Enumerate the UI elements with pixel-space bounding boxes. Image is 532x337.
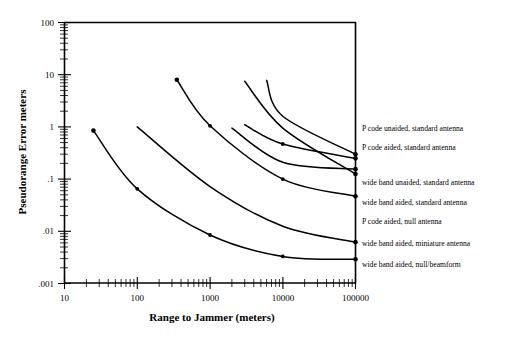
x-tick-label-100000: 100000: [342, 293, 370, 303]
chart-figure: 100 10 1 .1 .01 .001 10 100 1000 10000 1…: [0, 0, 532, 337]
y-axis-title: Pseudorange Error meters: [16, 89, 28, 215]
data-point-marker: [135, 187, 139, 191]
y-tick-label-0.01: .01: [43, 226, 54, 236]
legend-label-5: wide band aided, miniature antenna: [362, 239, 471, 248]
y-tick-label-100: 100: [41, 18, 55, 28]
x-tick-label-10000: 10000: [272, 293, 295, 303]
data-point-marker: [353, 172, 358, 177]
x-tick-label-10: 10: [60, 293, 70, 303]
plot-background: [0, 0, 532, 337]
legend-label-1: P code aided, standard antenna: [362, 143, 456, 152]
legend-label-2: wide band unaided, standard antenna: [362, 178, 475, 187]
y-tick-label-0.1: .1: [47, 174, 54, 184]
y-tick-label-10: 10: [45, 70, 55, 80]
data-point-marker: [353, 240, 358, 245]
data-point-marker: [353, 152, 358, 157]
y-tick-label-1: 1: [50, 122, 55, 132]
data-point-marker: [208, 233, 212, 237]
data-point-marker: [353, 257, 358, 262]
legend-label-6: wide band aided, null/beamform: [362, 260, 461, 269]
x-tick-label-1000: 1000: [201, 293, 220, 303]
y-tick-label-0.001: .001: [38, 279, 54, 289]
data-point-marker: [208, 124, 212, 128]
x-axis-title: Range to Jammer (meters): [149, 311, 275, 324]
x-tick-label-100: 100: [131, 293, 145, 303]
data-point-marker: [281, 255, 285, 259]
data-point-marker: [175, 77, 180, 82]
legend-label-4: P code aided, null antenna: [362, 217, 442, 226]
data-point-marker: [353, 156, 358, 161]
pseudorange-error-plot: 100 10 1 .1 .01 .001 10 100 1000 10000 1…: [0, 0, 532, 337]
legend-label-0: P code unaided, standard antenna: [362, 124, 464, 133]
data-point-marker: [91, 128, 96, 133]
data-point-marker: [281, 142, 285, 146]
data-point-marker: [353, 194, 358, 199]
data-point-marker: [353, 167, 358, 172]
data-point-marker: [281, 177, 285, 181]
legend-label-3: wide band aided, standard antenna: [362, 198, 467, 207]
